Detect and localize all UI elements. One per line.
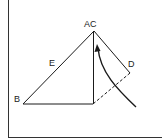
edge-apex-d [94, 31, 130, 73]
folding-diagram: AC B D E [0, 0, 162, 140]
label-e: E [49, 58, 55, 68]
arrow-head-icon [95, 44, 101, 52]
label-b: B [14, 94, 20, 104]
label-d: D [128, 59, 135, 69]
fold-line-dashed [93, 73, 130, 104]
fold-arrow [98, 48, 136, 107]
label-ac: AC [84, 19, 97, 29]
edge-be-apex [23, 31, 94, 104]
diagram-frame: AC B D E [0, 0, 162, 140]
